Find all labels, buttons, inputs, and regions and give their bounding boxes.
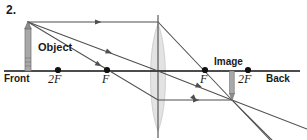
ray-arrowheads	[95, 19, 203, 102]
lens-ray-diagram-figure: 2. Object Image Front Back 2F F F 2F	[0, 0, 307, 140]
arrowhead-focal-refracted	[193, 97, 200, 102]
object-body	[25, 28, 31, 71]
focal-label-2f-front: 2F	[48, 72, 61, 87]
focal-label-2f-back: 2F	[238, 72, 251, 87]
focal-label-f-back: F	[200, 72, 207, 87]
arrowhead-parallel-incident	[95, 19, 102, 24]
ray-focal-extension	[232, 100, 273, 140]
object-arrow	[25, 21, 31, 71]
object-label: Object	[38, 41, 72, 53]
focal-label-f-front: F	[102, 72, 109, 87]
image-label: Image	[214, 56, 243, 67]
front-label: Front	[4, 73, 30, 84]
arrowhead-focal-incident	[95, 61, 103, 69]
image-arrow	[230, 71, 235, 101]
back-label: Back	[266, 73, 290, 84]
problem-number: 2.	[6, 3, 16, 17]
image-body	[230, 71, 235, 94]
arrowhead-center-incident	[105, 49, 113, 56]
diagram-canvas	[0, 0, 307, 140]
